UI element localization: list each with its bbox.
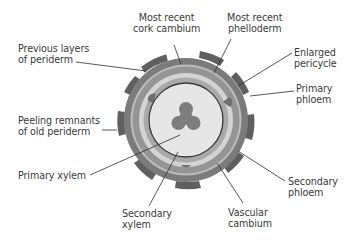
label-most-recent-cork-cambium: Most recent cork cambium [133,12,200,34]
label-secondary-phloem: Secondary phloem [288,176,338,198]
label-secondary-xylem: Secondary xylem [122,208,172,230]
label-previous-layers-of-periderm: Previous layers of periderm [18,43,89,65]
label-vascular-cambium: Vascular cambium [228,207,272,229]
label-peeling-remnants-of-old-periderm: Peeling remnants of old periderm [18,115,100,137]
label-enlarged-pericycle: Enlarged pericycle [294,47,337,69]
label-primary-phloem: Primary phloem [296,83,332,105]
label-most-recent-phelloderm: Most recent phelloderm [227,12,283,34]
label-primary-xylem: Primary xylem [18,170,86,181]
